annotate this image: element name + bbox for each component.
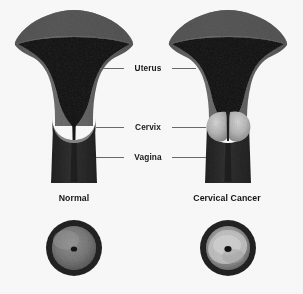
cancer-cervix-face-view: [200, 220, 256, 276]
caption-cervical-cancer: Cervical Cancer: [180, 192, 274, 203]
caption-normal: Normal: [37, 192, 111, 203]
label-uterus: Uterus: [130, 63, 167, 73]
cancer-cervical-canal: [227, 110, 230, 141]
leader-lines: [96, 68, 206, 157]
normal-vaginal-lumen: [71, 143, 78, 182]
label-cervix: Cervix: [130, 122, 167, 132]
cancer-vaginal-lumen: [225, 143, 232, 182]
label-vagina: Vagina: [130, 152, 167, 162]
normal-external-os: [71, 246, 77, 251]
normal-cervical-canal: [72, 112, 76, 140]
cervical-cancer-diagram: Uterus Cervix Vagina Normal Cervical Can…: [0, 0, 303, 294]
cancer-external-os: [224, 246, 231, 252]
diagram-canvas: [0, 0, 303, 294]
cervix-face-lesion-edge: [222, 249, 244, 263]
normal-cervix-face-view: [46, 220, 102, 276]
